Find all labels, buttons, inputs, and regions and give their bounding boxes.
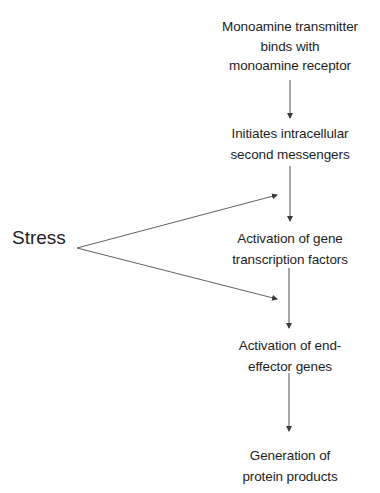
node-line: Activation of gene bbox=[205, 229, 375, 250]
node-line: binds with bbox=[205, 37, 375, 57]
node-line: transcription factors bbox=[205, 250, 375, 271]
node-line: Initiates intracellular bbox=[205, 124, 375, 145]
node-line: effector genes bbox=[205, 357, 375, 378]
node-line: Monoamine transmitter bbox=[205, 17, 375, 37]
node-line: Activation of end- bbox=[205, 336, 375, 357]
node-monoamine-binding: Monoamine transmitter binds with monoami… bbox=[205, 17, 375, 76]
node-line: protein products bbox=[205, 467, 375, 488]
node-line: second messengers bbox=[205, 145, 375, 166]
stress-label: Stress bbox=[12, 227, 66, 249]
node-gene-transcription: Activation of gene transcription factors bbox=[205, 229, 375, 270]
node-end-effector-genes: Activation of end- effector genes bbox=[205, 336, 375, 377]
node-line: monoamine receptor bbox=[205, 56, 375, 76]
node-line: Generation of bbox=[205, 446, 375, 467]
node-second-messengers: Initiates intracellular second messenger… bbox=[205, 124, 375, 165]
node-protein-products: Generation of protein products bbox=[205, 446, 375, 487]
